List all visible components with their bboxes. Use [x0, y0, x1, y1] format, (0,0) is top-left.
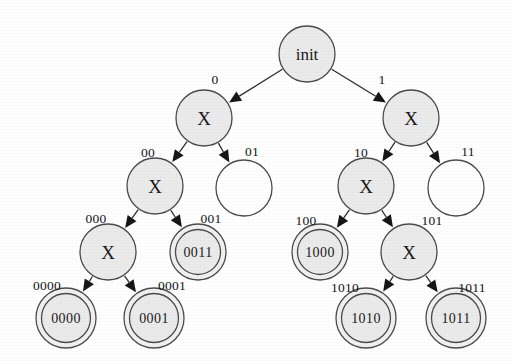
node-label: 0001 [139, 311, 169, 326]
edge-arrowhead [382, 148, 393, 161]
tree-edge [383, 276, 394, 291]
edge-line [125, 276, 130, 283]
edge-label: 11 [461, 144, 475, 159]
nodes-layer: initXXXXX00111000X0000000110101011 [36, 26, 486, 348]
tree-node[interactable]: 0000 [36, 288, 96, 348]
tree-node[interactable] [216, 160, 272, 216]
edge-label: 101 [421, 213, 442, 228]
tree-edge [426, 276, 438, 293]
tree-node[interactable]: 0001 [124, 288, 184, 348]
tree-node[interactable]: 0011 [170, 224, 226, 280]
node-circle [216, 160, 272, 216]
node-label: 1000 [305, 245, 335, 260]
node-label: X [101, 242, 115, 263]
tree-node[interactable]: X [176, 90, 232, 146]
edge-label: 10 [354, 145, 368, 160]
tree-edge [172, 142, 187, 163]
node-label: 1010 [351, 311, 381, 326]
edge-arrowhead [219, 149, 230, 162]
node-label: X [148, 176, 162, 197]
edge-arrowhead [172, 149, 183, 162]
tree-node[interactable]: 1011 [426, 288, 486, 348]
edge-label: 1010 [331, 280, 359, 295]
edge-line [426, 276, 431, 283]
edge-arrowhead [83, 278, 94, 291]
tree-node[interactable]: X [338, 158, 394, 214]
edge-arrowhead [382, 214, 393, 227]
tree-edge [171, 210, 182, 227]
edge-label: 01 [245, 144, 259, 159]
edge-arrowhead [229, 92, 242, 103]
edge-label: 100 [295, 213, 316, 228]
edge-line [171, 210, 176, 217]
edge-line [344, 210, 350, 218]
edge-line [390, 276, 393, 281]
diagram-canvas: initXXXXX00111000X0000000110101011 01000… [0, 0, 512, 364]
edge-line [332, 69, 376, 96]
edge-label: 0000 [33, 278, 61, 293]
edge-arrowhead [429, 150, 440, 163]
edge-label: 1 [378, 72, 385, 87]
tree-edge [337, 210, 350, 228]
tree-edge [125, 276, 136, 292]
edge-line [218, 143, 223, 152]
edge-arrowhead [125, 215, 136, 228]
edge-line [382, 210, 387, 217]
tree-node[interactable]: X [383, 90, 439, 146]
node-label: X [359, 176, 373, 197]
edge-arrowhead [383, 279, 394, 292]
edge-line [89, 276, 92, 281]
tree-edge [83, 276, 94, 291]
tree-edge [382, 210, 393, 227]
node-label: X [402, 242, 416, 263]
edge-label: 0001 [158, 278, 186, 293]
node-circle [428, 160, 484, 216]
tree-edge [427, 142, 440, 163]
tree-edge [229, 69, 282, 102]
edge-line [132, 210, 138, 219]
edge-arrowhead [171, 214, 182, 227]
edge-label: 00 [141, 145, 155, 160]
tree-node[interactable]: X [381, 224, 437, 280]
edge-label: 000 [85, 211, 106, 226]
tree-edge [218, 143, 229, 162]
tree-node[interactable]: X [127, 158, 183, 214]
node-label: 0011 [183, 245, 212, 260]
edge-label: 001 [200, 211, 221, 226]
edge-label: 1011 [458, 280, 486, 295]
tree-node[interactable]: 1010 [336, 288, 396, 348]
node-label: 1011 [441, 311, 470, 326]
edge-arrowhead [337, 215, 348, 228]
tree-node[interactable] [428, 160, 484, 216]
node-label: X [197, 108, 211, 129]
tree-diagram: initXXXXX00111000X0000000110101011 01000… [0, 0, 512, 364]
edge-arrowhead [426, 279, 437, 292]
edge-line [427, 142, 434, 153]
node-label: 0000 [51, 311, 81, 326]
edge-arrowhead [373, 92, 386, 103]
edge-label: 0 [211, 72, 218, 87]
node-label: X [404, 108, 418, 129]
edge-line [179, 142, 187, 153]
node-label: init [296, 45, 319, 64]
tree-node[interactable]: 1000 [292, 224, 348, 280]
tree-node[interactable]: X [80, 224, 136, 280]
tree-edge [125, 210, 138, 228]
edge-line [389, 142, 395, 151]
edge-line [239, 69, 282, 96]
edge-arrowhead [125, 279, 136, 292]
tree-edge [382, 142, 395, 161]
tree-node[interactable]: init [279, 26, 335, 82]
